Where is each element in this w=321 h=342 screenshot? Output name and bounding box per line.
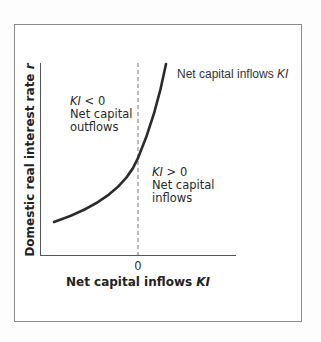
- right-region-annotation: KI > 0 Net capital inflows: [152, 166, 214, 205]
- ki-curve: [54, 64, 166, 222]
- x-axis-label: Net capital inflows KI: [66, 275, 210, 289]
- left-region-annotation: KI < 0 Net capital outflows: [70, 95, 132, 134]
- x-tick-zero: 0: [134, 259, 141, 273]
- curve-label: Net capital inflows KI: [177, 68, 288, 81]
- y-axis-label: Domestic real interest rate r: [23, 63, 37, 256]
